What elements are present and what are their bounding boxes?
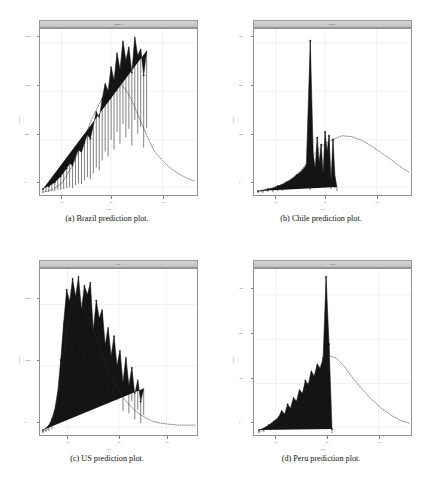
- strip-title-chile: Chile: [329, 23, 336, 26]
- caption-chile: (b) Chile prediction plot.: [214, 214, 428, 223]
- figure-us: US: [18, 260, 200, 460]
- y-tick-label: 200: [239, 332, 243, 335]
- x-tick-label: Jul: [323, 201, 326, 204]
- y-axis-label-peru: deaths: [232, 356, 235, 363]
- x-tick-label: Jul: [109, 201, 112, 204]
- y-axis-label-chile: deaths: [232, 116, 235, 123]
- figure-cell-peru: Peru: [214, 240, 428, 480]
- plot-area-brazil: Brazil: [18, 20, 200, 220]
- observed-series-brazil: [42, 37, 146, 193]
- plot-panel-us: [39, 268, 198, 436]
- panel-grid: Brazil: [0, 0, 428, 480]
- plot-area-chile: Chile: [232, 20, 414, 220]
- y-tick-label: 400: [239, 84, 243, 87]
- strip-title-brazil: Brazil: [115, 23, 123, 26]
- y-tick-label: 0: [25, 181, 26, 184]
- y-tick-label: 1000: [25, 84, 30, 87]
- x-tick-label: Apr: [59, 201, 63, 204]
- y-tick-label: 0: [239, 421, 240, 424]
- x-tick-label: Oct: [375, 201, 379, 204]
- strip-header-brazil: Brazil: [39, 20, 198, 28]
- x-axis-label-brazil: Date: [106, 208, 111, 211]
- y-tick-label: 1500: [25, 35, 30, 38]
- plot-area-peru: Peru: [232, 260, 414, 460]
- y-tick-label: 300: [239, 287, 243, 290]
- y-tick-label: 200: [239, 133, 243, 136]
- plot-area-us: US: [18, 260, 200, 460]
- caption-peru: (d) Peru prediction plot.: [214, 454, 428, 463]
- x-tick-label: Jul: [117, 441, 120, 444]
- x-tick-label: Oct: [377, 441, 381, 444]
- figure-peru: Peru: [232, 260, 414, 460]
- plot-svg-us: [40, 269, 197, 435]
- x-axis-label-us: Date: [106, 448, 111, 451]
- plot-panel-peru: [253, 268, 412, 436]
- strip-header-peru: Peru: [253, 260, 412, 268]
- y-tick-label: 1000: [25, 359, 30, 362]
- x-tick-label: Oct: [165, 441, 169, 444]
- x-tick-label: Apr: [273, 201, 277, 204]
- y-tick-label: 600: [239, 35, 243, 38]
- y-tick-label: 2000: [25, 297, 30, 300]
- figure-cell-brazil: Brazil: [0, 0, 214, 240]
- y-tick-label: 500: [25, 133, 29, 136]
- plot-svg-chile: [254, 29, 411, 195]
- x-tick-label: Jul: [325, 441, 328, 444]
- x-tick-label: Apr: [273, 441, 277, 444]
- figure-cell-chile: Chile: [214, 0, 428, 240]
- strip-title-us: US: [117, 263, 121, 266]
- strip-header-us: US: [39, 260, 198, 268]
- figure-chile: Chile: [232, 20, 414, 220]
- x-tick-label: Apr: [65, 441, 69, 444]
- y-axis-label-us: deaths: [18, 356, 21, 363]
- gridlines-peru: [254, 269, 411, 435]
- caption-brazil: (a) Brazil prediction plot.: [0, 214, 214, 223]
- strip-header-chile: Chile: [253, 20, 412, 28]
- plot-svg-brazil: [40, 29, 197, 195]
- x-tick-label: Oct: [161, 201, 165, 204]
- figure-cell-us: US: [0, 240, 214, 480]
- y-tick-label: 0: [25, 421, 26, 424]
- plot-panel-brazil: [39, 28, 198, 196]
- y-tick-label: 100: [239, 377, 243, 380]
- strip-title-peru: Peru: [330, 263, 336, 266]
- predicted-series-brazil: [43, 83, 195, 192]
- caption-us: (c) US prediction plot.: [0, 454, 214, 463]
- observed-series-us: [42, 276, 143, 433]
- figure-page: Brazil: [0, 0, 428, 480]
- x-axis-label-chile: Date: [320, 208, 325, 211]
- y-axis-label-brazil: deaths: [18, 116, 21, 123]
- figure-brazil: Brazil: [18, 20, 200, 220]
- plot-svg-peru: [254, 269, 411, 435]
- plot-panel-chile: [253, 28, 412, 196]
- y-tick-label: 0: [239, 181, 240, 184]
- observed-series-peru: [258, 276, 332, 433]
- x-axis-label-peru: Date: [320, 448, 325, 451]
